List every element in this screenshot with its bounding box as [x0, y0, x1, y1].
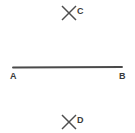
point-label-d: D	[77, 116, 84, 125]
figure-canvas	[0, 0, 135, 133]
point-label-b: B	[119, 72, 126, 81]
segment-ab	[13, 67, 122, 68]
geometry-figure: A B C D	[0, 0, 135, 133]
point-marker-c	[62, 6, 76, 20]
point-label-a: A	[10, 72, 17, 81]
point-label-c: C	[77, 7, 84, 16]
point-marker-d	[62, 115, 76, 129]
